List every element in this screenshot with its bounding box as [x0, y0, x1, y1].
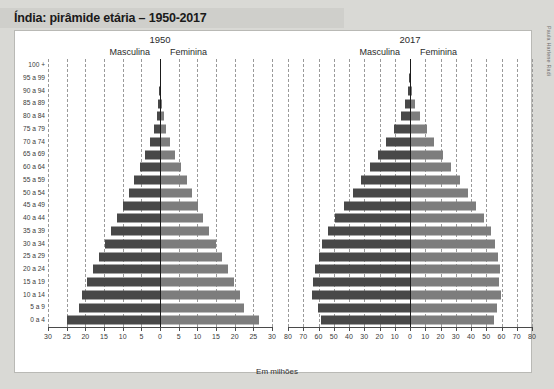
x-tick-label: 60 — [498, 333, 506, 340]
axis-tick — [216, 327, 217, 331]
plot-area-2017 — [288, 59, 532, 327]
pyramid-panel-1950: 1950 Masculina Feminina 100 +95 a 9990 a… — [22, 34, 272, 344]
y-tick-label: 55 a 59 — [23, 174, 45, 187]
y-tick-label: 35 a 39 — [23, 225, 45, 238]
axis-tick — [364, 327, 365, 331]
bar-male — [67, 316, 160, 325]
bar-male — [111, 227, 160, 236]
bar-male — [344, 201, 410, 210]
bar-female — [160, 201, 198, 210]
x-tick-label: 70 — [299, 333, 307, 340]
x-tick-label: 60 — [315, 333, 323, 340]
y-tick-label: 50 a 54 — [23, 187, 45, 200]
panel-year-label-2017: 2017 — [288, 34, 532, 46]
x-tick-label: 20 — [81, 333, 89, 340]
y-axis-labels-1950: 100 +95 a 9990 a 9485 a 8980 a 8475 a 79… — [22, 59, 48, 327]
x-tick-label: 20 — [376, 333, 384, 340]
axis-tick — [288, 327, 289, 331]
bar-male — [93, 265, 160, 274]
bar-female — [410, 201, 476, 210]
bar-female — [410, 316, 494, 325]
bar-male — [322, 239, 410, 248]
bar-male — [328, 227, 410, 236]
panel-legend-1950: Masculina Feminina — [22, 46, 272, 59]
bar-female — [410, 163, 451, 172]
y-tick-label: 80 a 84 — [23, 110, 45, 123]
bar-male — [134, 176, 160, 185]
bar-male — [140, 163, 160, 172]
axis-tick — [48, 327, 49, 331]
credit-text: Paula Harlene Radi — [546, 26, 552, 76]
x-tick-label: 15 — [100, 333, 108, 340]
legend-female-2017: Feminina — [410, 46, 532, 59]
x-axis-tick-labels-2017: 807060504030201001020304050607080 — [288, 332, 532, 344]
chart-page: Índia: pirâmide etária – 1950-2017 Paula… — [0, 0, 554, 389]
page-title: Índia: pirâmide etária – 1950-2017 — [0, 11, 207, 25]
bar-male — [386, 137, 410, 146]
legend-female-1950: Feminina — [160, 46, 272, 59]
y-tick-label: 85 a 89 — [23, 97, 45, 110]
x-tick-label: 0 — [408, 333, 412, 340]
y-tick-label: 45 a 49 — [23, 199, 45, 212]
bar-male — [361, 176, 410, 185]
plot-wrap-1950: 100 +95 a 9990 a 9485 a 8980 a 8475 a 79… — [22, 59, 272, 327]
x-tick-label: 80 — [528, 333, 536, 340]
bar-female — [410, 252, 498, 261]
y-tick-label: 60 a 64 — [23, 161, 45, 174]
bar-female — [410, 239, 495, 248]
bar-male — [123, 201, 160, 210]
bar-male — [82, 290, 160, 299]
y-tick-label: 100 + — [28, 59, 45, 72]
x-tick-label: 20 — [437, 333, 445, 340]
bar-female — [410, 150, 443, 159]
x-tick-label: 80 — [284, 333, 292, 340]
axis-tick — [104, 327, 105, 331]
axis-tick — [85, 327, 86, 331]
axis-tick — [272, 327, 273, 331]
x-axis-wrap-1950: 30252015105051015202530 — [48, 327, 272, 344]
bar-female — [160, 278, 234, 287]
bar-female — [410, 303, 497, 312]
bar-female — [410, 265, 500, 274]
bar-male — [79, 303, 160, 312]
axis-tick — [179, 327, 180, 331]
x-tick-label: 5 — [139, 333, 143, 340]
bar-male — [321, 316, 410, 325]
bar-male — [318, 303, 410, 312]
unit-label: Em milhões — [0, 367, 554, 376]
x-tick-label: 10 — [119, 333, 127, 340]
pyramid-panel-2017: 2017 Masculina Feminina 8070605040302010… — [288, 34, 532, 344]
axis-tick — [319, 327, 320, 331]
bar-female — [160, 290, 240, 299]
axis-tick — [486, 327, 487, 331]
x-tick-label: 10 — [421, 333, 429, 340]
legend-male-1950: Masculina — [48, 46, 160, 59]
bar-male — [312, 290, 410, 299]
bar-male — [145, 150, 160, 159]
gridline — [532, 59, 533, 327]
y-tick-label: 5 a 9 — [30, 301, 45, 314]
axis-tick — [517, 327, 518, 331]
x-tick-label: 20 — [231, 333, 239, 340]
bar-female — [160, 316, 259, 325]
bar-female — [410, 227, 491, 236]
axis-tick — [380, 327, 381, 331]
x-tick-label: 30 — [452, 333, 460, 340]
y-tick-label: 0 a 4 — [30, 314, 45, 327]
axis-tick — [456, 327, 457, 331]
legend-male-2017: Masculina — [288, 46, 410, 59]
bar-male — [315, 265, 410, 274]
axis-tick — [471, 327, 472, 331]
x-tick-label: 40 — [467, 333, 475, 340]
x-axis-wrap-2017: 807060504030201001020304050607080 — [288, 327, 532, 344]
bar-female — [160, 239, 216, 248]
x-tick-label: 30 — [360, 333, 368, 340]
bar-female — [410, 278, 499, 287]
x-tick-label: 10 — [193, 333, 201, 340]
axis-tick — [303, 327, 304, 331]
bar-female — [160, 137, 170, 146]
panel-year-label-1950: 1950 — [22, 34, 272, 46]
bar-male — [370, 163, 410, 172]
bar-male — [394, 125, 410, 134]
x-tick-label: 50 — [482, 333, 490, 340]
